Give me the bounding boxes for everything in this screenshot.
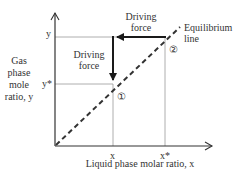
y-axis-label-line: Gas xyxy=(11,55,27,66)
y-axis-label: Gas phase mole ratio, y xyxy=(5,55,33,102)
driving-force-label-vertical: Driving force xyxy=(73,49,104,71)
x-axis-label: Liquid phase molar ratio, x xyxy=(86,158,195,169)
ystar-tick-label: y* xyxy=(42,78,52,89)
y-axis-label-line: phase xyxy=(8,67,31,78)
point-2-label: ② xyxy=(169,44,178,55)
driving-force-label-line: Driving xyxy=(73,49,104,60)
equilibrium-diagram: y y* x x* Gas phase mole ratio, y Liquid… xyxy=(0,0,238,170)
equilibrium-label-line: line xyxy=(184,33,200,44)
equilibrium-line-label: Equilibrium line xyxy=(184,22,233,44)
y-axis-label-line: ratio, y xyxy=(5,91,33,102)
driving-force-label-line: force xyxy=(131,22,152,33)
driving-force-label-horizontal: Driving force xyxy=(125,11,156,33)
equilibrium-line xyxy=(56,27,180,145)
equilibrium-label-line: Equilibrium xyxy=(184,22,233,33)
y-axis-label-line: mole xyxy=(9,79,30,90)
point-1-label: ① xyxy=(117,91,126,102)
driving-force-label-line: force xyxy=(79,60,100,71)
y-tick-label: y xyxy=(46,28,51,39)
driving-force-label-line: Driving xyxy=(125,11,156,22)
